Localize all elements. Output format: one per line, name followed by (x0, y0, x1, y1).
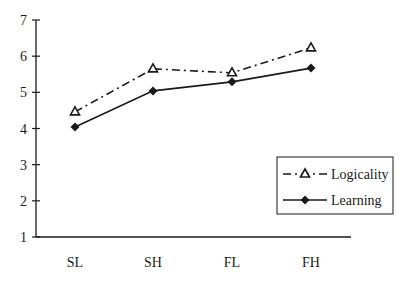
x-category-label: SH (144, 255, 162, 270)
series-layer (71, 43, 316, 132)
diamond-marker-icon (228, 77, 237, 86)
triangle-marker-icon (307, 43, 316, 51)
legend-label-learning: Learning (331, 193, 382, 208)
x-category-label: SL (67, 255, 83, 270)
line-chart: 1234567 SLSHFLFH Logicality Learning (0, 0, 411, 282)
series-logicality (71, 43, 316, 115)
diamond-marker-icon (307, 64, 316, 73)
triangle-marker-icon (71, 107, 80, 115)
diamond-marker-icon (71, 123, 80, 132)
y-tick-label: 7 (20, 13, 27, 28)
triangle-marker-icon (228, 68, 237, 76)
y-tick-label: 1 (20, 230, 27, 245)
y-tick-label: 5 (20, 85, 27, 100)
x-category-label: FL (224, 255, 240, 270)
y-axis: 1234567 (20, 13, 40, 245)
legend-label-logicality: Logicality (331, 167, 389, 182)
diamond-marker-icon (149, 86, 158, 95)
x-axis: SLSHFLFH (36, 237, 351, 270)
legend: Logicality Learning (277, 157, 393, 214)
y-tick-label: 6 (20, 49, 27, 64)
triangle-marker-icon (149, 64, 158, 72)
x-category-label: FH (302, 255, 320, 270)
series-learning (71, 64, 316, 132)
series-line (75, 68, 311, 127)
y-tick-label: 2 (20, 194, 27, 209)
y-tick-label: 3 (20, 158, 27, 173)
y-tick-label: 4 (20, 122, 27, 137)
series-line (75, 48, 311, 112)
